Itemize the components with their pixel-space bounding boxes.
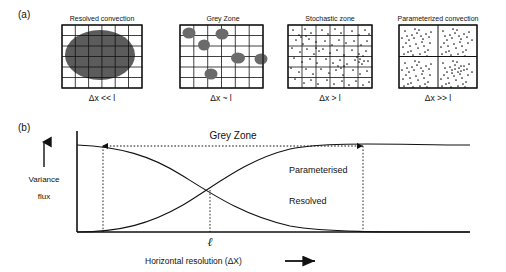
figure-root: (a) Resolved convection Δx << l Grey	[0, 0, 506, 272]
guide-lines	[103, 146, 363, 232]
panel-a-label: (a)	[18, 9, 30, 20]
cell-title-grey-zone: Grey Zone	[206, 15, 239, 23]
x-axis-label: Horizontal resolution (ΔX)	[145, 256, 242, 266]
curve-label-parameterised: Parameterised	[289, 165, 348, 175]
cell-resolved-convection: Resolved convection Δx << l	[62, 15, 142, 103]
grid-resolved-convection	[62, 25, 142, 88]
curve-parameterised	[77, 144, 470, 232]
curves	[77, 144, 470, 232]
grid-grey-zone	[180, 25, 268, 88]
x-axis-annotation: Horizontal resolution (ΔX)	[145, 256, 315, 266]
dx-label-parameterized-convection: Δx >> l	[425, 93, 452, 103]
dx-label-stochastic-zone: Δx > l	[319, 93, 341, 103]
dx-label-resolved-convection: Δx << l	[89, 93, 116, 103]
y-axis-label-flux: flux	[38, 192, 50, 201]
y-axis-annotation: Variance flux	[29, 142, 61, 201]
curve-resolved	[77, 145, 470, 232]
cell-stochastic-zone: Stochastic zone	[288, 15, 372, 103]
grey-zone-annotation: Grey Zone	[103, 130, 363, 146]
panel-b-label: (b)	[18, 122, 30, 133]
grid-parameterized-convection	[399, 25, 477, 88]
grey-zone-label: Grey Zone	[209, 130, 257, 141]
cell-title-resolved-convection: Resolved convection	[70, 15, 135, 22]
cell-title-stochastic-zone: Stochastic zone	[305, 15, 355, 22]
x-tick-label-ell: ℓ	[208, 235, 213, 249]
cell-grey-zone: Grey Zone	[180, 15, 268, 103]
cell-parameterized-convection: Parameterized convection	[398, 15, 479, 103]
dx-label-grey-zone: Δx ~ l	[210, 93, 232, 103]
cell-title-parameterized-convection: Parameterized convection	[398, 15, 479, 22]
curve-label-resolved: Resolved	[289, 196, 327, 206]
y-axis-label-variance: Variance	[29, 175, 61, 184]
grid-stochastic-zone	[288, 25, 372, 88]
